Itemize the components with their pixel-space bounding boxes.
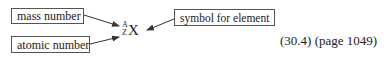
nuclide-notation: A Z X [120,20,144,40]
element-symbol-label: symbol for element [174,9,275,26]
atomic-subscript: Z [122,29,127,37]
equation-reference: (30.4) (page 1049) [280,33,377,48]
mass-arrow [84,15,119,26]
mass-number-label: mass number [11,8,84,24]
atomic-arrow [90,37,119,44]
element-symbol: X [128,22,139,38]
atomic-number-label: atomic number [11,36,90,53]
symbol-arrow [147,19,174,30]
